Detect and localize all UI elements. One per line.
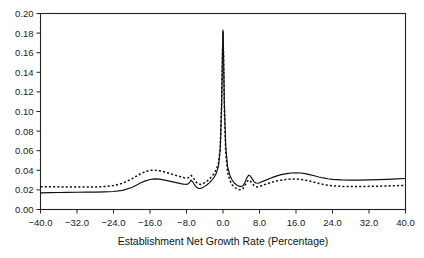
series-dotted-density bbox=[41, 32, 406, 190]
x-tick-label: −32.0 bbox=[65, 217, 89, 228]
y-tick-label: 0.06 bbox=[15, 145, 34, 156]
y-tick-label: 0.16 bbox=[15, 47, 34, 58]
y-axis-ticks: 0.000.020.040.060.080.100.120.140.160.18… bbox=[15, 8, 41, 215]
x-tick-label: 8.0 bbox=[253, 217, 266, 228]
y-tick-label: 0.20 bbox=[15, 8, 34, 19]
y-tick-label: 0.18 bbox=[15, 28, 34, 39]
x-tick-label: 0.0 bbox=[216, 217, 229, 228]
y-tick-label: 0.00 bbox=[15, 204, 34, 215]
x-axis-ticks: −40.0−32.0−24.0−16.0−8.00.08.016.024.032… bbox=[28, 210, 414, 228]
x-tick-label: −40.0 bbox=[28, 217, 52, 228]
x-tick-label: 40.0 bbox=[396, 217, 415, 228]
chart-canvas: 0.000.020.040.060.080.100.120.140.160.18… bbox=[0, 0, 424, 258]
x-tick-label: 32.0 bbox=[360, 217, 379, 228]
x-tick-label: 24.0 bbox=[323, 217, 342, 228]
y-tick-label: 0.08 bbox=[15, 126, 34, 137]
x-tick-label: −24.0 bbox=[101, 217, 125, 228]
x-axis-title: Establishment Net Growth Rate (Percentag… bbox=[118, 235, 329, 247]
density-chart: 0.000.020.040.060.080.100.120.140.160.18… bbox=[0, 0, 424, 258]
y-tick-label: 0.14 bbox=[15, 67, 34, 78]
y-tick-label: 0.10 bbox=[15, 106, 34, 117]
y-tick-label: 0.04 bbox=[15, 165, 34, 176]
x-tick-label: −8.0 bbox=[177, 217, 196, 228]
y-tick-label: 0.12 bbox=[15, 86, 34, 97]
x-tick-label: 16.0 bbox=[287, 217, 306, 228]
x-tick-label: −16.0 bbox=[138, 217, 162, 228]
y-tick-label: 0.02 bbox=[15, 184, 34, 195]
